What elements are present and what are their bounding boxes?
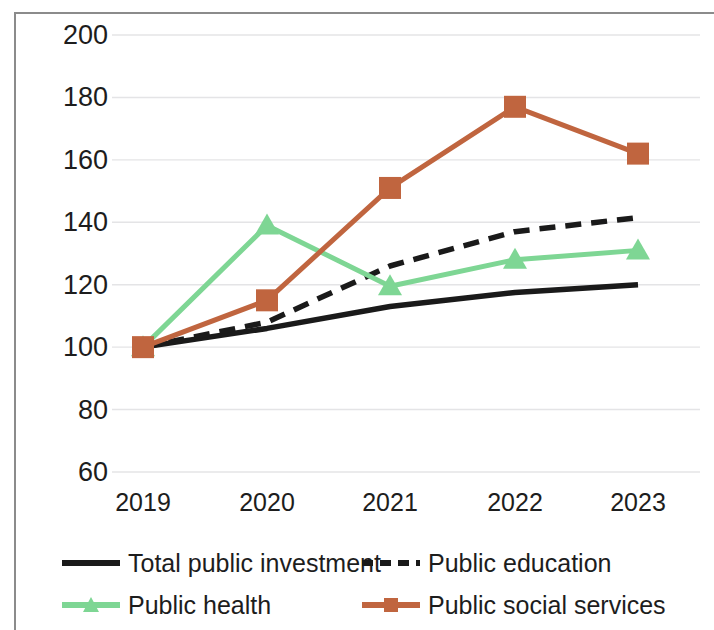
legend-label-public-health: Public health [128, 591, 271, 620]
legend-row-1: Total public investment Public education [60, 542, 700, 584]
chart-container: 2001801601401201008060 20192020202120222… [0, 0, 714, 630]
series-line-3 [143, 107, 638, 347]
legend-swatch-solid-line-icon [60, 552, 122, 574]
legend-swatch-green-triangle-line-icon [60, 594, 122, 616]
legend-swatch-orange-square-line-icon [360, 594, 422, 616]
data-point-marker [255, 213, 279, 234]
data-point-marker [132, 336, 154, 358]
chart-legend: Total public investment Public education… [60, 542, 700, 626]
legend-label-public-social-services: Public social services [428, 591, 666, 620]
legend-swatch-dashed-line-icon [360, 552, 422, 574]
data-point-marker [504, 96, 526, 118]
legend-item-public-health[interactable]: Public health [60, 591, 360, 620]
legend-label-public-education: Public education [428, 549, 611, 578]
data-point-marker [627, 143, 649, 165]
legend-item-public-social-services[interactable]: Public social services [360, 591, 700, 620]
legend-row-2: Public health Public social services [60, 584, 700, 626]
legend-item-public-education[interactable]: Public education [360, 549, 660, 578]
data-point-marker [256, 289, 278, 311]
legend-label-total-public-investment: Total public investment [128, 549, 381, 578]
plot-area [0, 0, 714, 630]
legend-item-total-public-investment[interactable]: Total public investment [60, 549, 360, 578]
data-point-marker [379, 177, 401, 199]
